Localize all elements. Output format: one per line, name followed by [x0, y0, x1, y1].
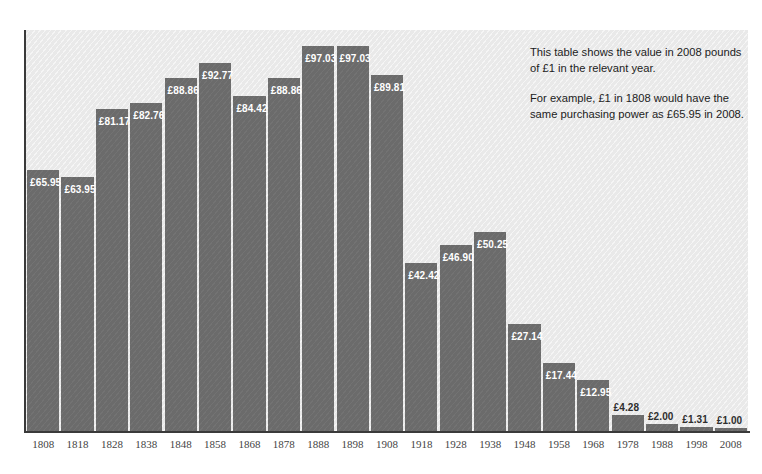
- bar-value-label-1888: £97.03: [302, 53, 334, 64]
- bar-1838[interactable]: £82.76: [130, 103, 162, 432]
- x-tick-1858: 1858: [198, 437, 232, 451]
- bar-value-label-1818: £63.95: [61, 184, 93, 195]
- x-tick-1938: 1938: [473, 437, 507, 451]
- bar-1848[interactable]: £88.86: [165, 78, 197, 432]
- bar-value-label-1938: £50.25: [474, 239, 506, 250]
- bar-value-label-1908: £89.81: [371, 82, 403, 93]
- x-tick-1888: 1888: [301, 437, 335, 451]
- bar-value-label-1988: £2.00: [646, 411, 678, 422]
- y-axis-spine: [24, 30, 26, 433]
- bar-value-label-1978: £4.28: [612, 402, 644, 413]
- bar-1948[interactable]: £27.14: [508, 324, 540, 432]
- bar-1898[interactable]: £97.03: [337, 46, 369, 432]
- x-tick-1998: 1998: [679, 437, 713, 451]
- bar-value-label-1808: £65.95: [27, 177, 59, 188]
- x-tick-1988: 1988: [645, 437, 679, 451]
- x-tick-1808: 1808: [26, 437, 60, 451]
- annotation-paragraph-1: This table shows the value in 2008 pound…: [530, 45, 748, 76]
- bar-value-label-1948: £27.14: [508, 331, 540, 342]
- x-tick-1968: 1968: [576, 437, 610, 451]
- bar-value-label-1878: £88.86: [268, 85, 300, 96]
- x-tick-1928: 1928: [439, 437, 473, 451]
- bar-value-label-1968: £12.95: [577, 387, 609, 398]
- x-tick-1958: 1958: [542, 437, 576, 451]
- x-tick-1878: 1878: [267, 437, 301, 451]
- bar-value-label-1998: £1.31: [680, 414, 712, 425]
- x-tick-1898: 1898: [335, 437, 369, 451]
- x-tick-1848: 1848: [164, 437, 198, 451]
- x-tick-1838: 1838: [129, 437, 163, 451]
- x-tick-1978: 1978: [610, 437, 644, 451]
- bar-1958[interactable]: £17.44: [543, 363, 575, 432]
- bar-1868[interactable]: £84.42: [233, 96, 265, 432]
- bar-1918[interactable]: £42.42: [405, 263, 437, 432]
- bar-1938[interactable]: £50.25: [474, 232, 506, 432]
- annotation-line-4: same purchasing power as £65.95 in 2008.: [530, 108, 744, 120]
- bar-1858[interactable]: £92.77: [199, 63, 231, 432]
- bar-value-label-1928: £46.90: [440, 252, 472, 263]
- x-tick-1948: 1948: [507, 437, 541, 451]
- bar-1828[interactable]: £81.17: [96, 109, 128, 432]
- x-tick-1918: 1918: [404, 437, 438, 451]
- bar-1908[interactable]: £89.81: [371, 75, 403, 432]
- annotation-line-3: For example, £1 in 1808 would have the: [530, 92, 729, 104]
- x-tick-1868: 1868: [232, 437, 266, 451]
- bar-value-label-1838: £82.76: [130, 110, 162, 121]
- bar-value-label-1898: £97.03: [337, 53, 369, 64]
- bar-value-label-1828: £81.17: [96, 116, 128, 127]
- bar-1888[interactable]: £97.03: [302, 46, 334, 432]
- chart-figure: £65.95£63.95£81.17£82.76£88.86£92.77£84.…: [0, 0, 762, 474]
- annotation-line-1: This table shows the value in 2008 pound…: [530, 46, 741, 58]
- annotation-paragraph-2: For example, £1 in 1808 would have the s…: [530, 91, 748, 122]
- x-tick-1828: 1828: [95, 437, 129, 451]
- x-tick-1908: 1908: [370, 437, 404, 451]
- x-axis-tick-labels: 1808181818281838184818581868187818881898…: [26, 437, 748, 457]
- bar-value-label-1918: £42.42: [405, 270, 437, 281]
- bar-1928[interactable]: £46.90: [440, 245, 472, 432]
- bar-1878[interactable]: £88.86: [268, 78, 300, 432]
- annotation-line-2: of £1 in the relevant year.: [530, 62, 656, 74]
- bar-1818[interactable]: £63.95: [61, 177, 93, 432]
- x-tick-1818: 1818: [60, 437, 94, 451]
- x-axis-spine: [24, 431, 750, 433]
- x-tick-2008: 2008: [714, 437, 748, 451]
- bar-value-label-1848: £88.86: [165, 85, 197, 96]
- chart-annotation: This table shows the value in 2008 pound…: [530, 45, 748, 122]
- bar-value-label-1958: £17.44: [543, 370, 575, 381]
- bar-value-label-2008: £1.00: [715, 415, 747, 426]
- bar-1978[interactable]: £4.28: [612, 415, 644, 432]
- bar-1968[interactable]: £12.95: [577, 380, 609, 432]
- bar-value-label-1868: £84.42: [233, 103, 265, 114]
- bar-1808[interactable]: £65.95: [27, 170, 59, 432]
- bar-value-label-1858: £92.77: [199, 70, 231, 81]
